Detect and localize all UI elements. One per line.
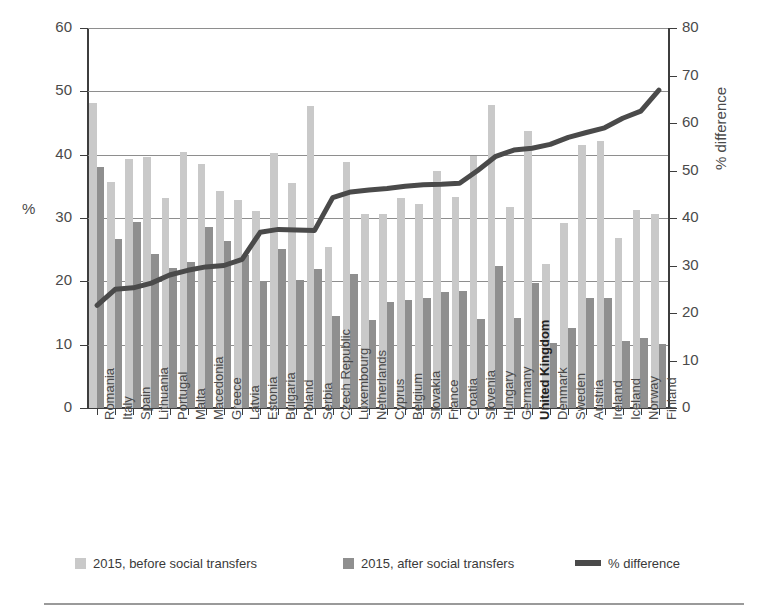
x-label-norway: Norway	[646, 376, 661, 420]
y-tick-right-50: 50	[682, 161, 712, 178]
y-tick-right-30: 30	[682, 256, 712, 273]
x-label-ireland: Ireland	[610, 380, 625, 420]
x-label-bulgaria: Bulgaria	[283, 372, 298, 420]
chart-container: % % difference 0102030405060 01020304050…	[0, 0, 769, 615]
y-tickmark-right	[669, 28, 677, 29]
y-tick-left-10: 10	[38, 335, 72, 352]
y-tick-left-40: 40	[38, 145, 72, 162]
x-label-denmark: Denmark	[555, 367, 570, 420]
x-label-netherlands: Netherlands	[374, 350, 389, 420]
y-tickmark-right	[669, 76, 677, 77]
x-label-sweden: Sweden	[573, 373, 588, 420]
y-tick-right-80: 80	[682, 18, 712, 35]
x-label-iceland: Iceland	[628, 378, 643, 420]
y-tick-right-10: 10	[682, 351, 712, 368]
axis-line-right	[668, 28, 670, 408]
legend-item-0: 2015, before social transfers	[75, 556, 257, 571]
legend-item-2: % difference	[575, 556, 680, 571]
x-label-spain: Spain	[138, 387, 153, 420]
x-label-macedonia: Macedonia	[211, 356, 226, 420]
x-label-serbia: Serbia	[320, 382, 335, 420]
x-label-italy: Italy	[120, 396, 135, 420]
x-label-latvia: Latvia	[247, 385, 262, 420]
legend-item-1: 2015, after social transfers	[343, 556, 514, 571]
x-label-romania: Romania	[102, 368, 117, 420]
x-label-hungary: Hungary	[501, 371, 516, 420]
y-axis-right-title: % difference	[712, 87, 729, 170]
y-tick-right-40: 40	[682, 208, 712, 225]
x-label-estonia: Estonia	[265, 377, 280, 420]
x-label-slovenia: Slovenia	[483, 370, 498, 420]
x-label-luxembourg: Luxembourg	[356, 348, 371, 420]
y-axis-left-title: %	[22, 200, 35, 217]
y-tick-right-20: 20	[682, 303, 712, 320]
legend-label: % difference	[608, 556, 680, 571]
x-label-czech-republic: Czech Republic	[338, 329, 353, 420]
chart-legend: 2015, before social transfers2015, after…	[75, 556, 695, 576]
x-label-lithuania: Lithuania	[156, 367, 171, 420]
legend-swatch-line-dark-icon	[575, 560, 601, 566]
x-label-belgium: Belgium	[410, 373, 425, 420]
x-label-slovakia: Slovakia	[428, 371, 443, 420]
x-label-finland: Finland	[664, 377, 679, 420]
y-tickmark-right	[669, 313, 677, 314]
y-tick-right-0: 0	[682, 398, 712, 415]
y-tick-left-20: 20	[38, 271, 72, 288]
y-tickmark-right	[669, 123, 677, 124]
y-tickmark-right	[669, 218, 677, 219]
footer-rule	[44, 603, 744, 605]
x-label-united-kingdom: United Kingdom	[537, 320, 552, 420]
legend-label: 2015, before social transfers	[93, 556, 257, 571]
x-label-croatia: Croatia	[465, 378, 480, 420]
y-tick-right-70: 70	[682, 66, 712, 83]
legend-swatch-square-dark-icon	[343, 558, 354, 569]
y-tickmark-right	[669, 361, 677, 362]
y-tickmark-right	[669, 171, 677, 172]
y-tick-left-30: 30	[38, 208, 72, 225]
x-label-austria: Austria	[591, 380, 606, 420]
x-label-greece: Greece	[229, 377, 244, 420]
x-label-germany: Germany	[519, 367, 534, 420]
y-tick-left-0: 0	[38, 398, 72, 415]
x-label-malta: Malta	[193, 388, 208, 420]
y-tick-right-60: 60	[682, 113, 712, 130]
x-label-portugal: Portugal	[175, 372, 190, 420]
x-label-poland: Poland	[301, 380, 316, 420]
x-tickmark	[97, 408, 98, 415]
y-tickmark-right	[669, 266, 677, 267]
x-label-cyprus: Cyprus	[392, 379, 407, 420]
legend-swatch-square-light-icon	[75, 558, 86, 569]
y-tick-left-50: 50	[38, 81, 72, 98]
legend-label: 2015, after social transfers	[361, 556, 514, 571]
x-label-france: France	[446, 380, 461, 420]
y-tick-left-60: 60	[38, 18, 72, 35]
